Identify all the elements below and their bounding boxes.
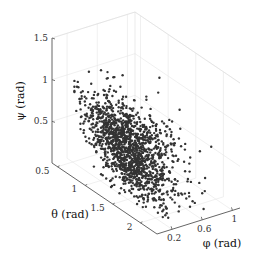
data-point: [161, 169, 163, 171]
data-point: [80, 116, 82, 118]
data-point: [106, 140, 108, 142]
data-point: [152, 199, 154, 201]
data-point: [159, 131, 161, 133]
data-point: [113, 140, 115, 142]
data-point: [158, 143, 160, 145]
data-point: [113, 135, 115, 137]
data-point: [151, 149, 153, 151]
data-point: [105, 117, 107, 119]
data-point: [105, 113, 107, 115]
data-point: [121, 145, 123, 147]
data-point: [149, 142, 151, 144]
data-point: [146, 167, 148, 169]
data-point: [137, 152, 139, 154]
data-point: [92, 118, 94, 120]
data-point: [148, 193, 150, 195]
data-point: [79, 108, 81, 110]
data-point: [111, 177, 113, 179]
data-point: [129, 120, 131, 122]
data-point: [103, 158, 105, 160]
data-point: [131, 130, 133, 132]
data-point: [110, 124, 112, 126]
data-point: [160, 173, 162, 175]
data-point: [100, 156, 102, 158]
data-point: [133, 169, 135, 171]
data-point: [164, 146, 166, 148]
data-point: [123, 180, 125, 182]
data-point: [120, 154, 122, 156]
data-point: [130, 108, 132, 110]
data-point: [102, 113, 104, 115]
data-point: [141, 142, 143, 144]
data-point: [129, 118, 131, 120]
data-point: [134, 156, 136, 158]
data-point: [159, 169, 161, 171]
data-point: [140, 181, 142, 183]
data-point: [128, 173, 130, 175]
data-point: [128, 143, 130, 145]
data-point: [123, 176, 125, 178]
y-tick: [140, 222, 142, 223]
data-point: [165, 206, 167, 208]
data-point: [121, 74, 123, 76]
z-tick-label: 0.5: [34, 116, 49, 126]
data-point: [107, 77, 109, 79]
data-point: [112, 146, 114, 148]
data-point: [84, 136, 86, 138]
data-point: [108, 165, 110, 167]
data-point: [188, 192, 190, 194]
data-point: [129, 169, 131, 171]
data-point: [153, 162, 155, 164]
data-point: [134, 183, 136, 185]
data-point: [131, 165, 133, 167]
data-point: [188, 162, 190, 164]
data-point: [95, 142, 97, 144]
data-point: [143, 131, 145, 133]
data-point: [165, 151, 167, 153]
data-point: [95, 151, 97, 153]
data-point: [169, 128, 171, 130]
data-point: [133, 144, 135, 146]
data-point: [88, 71, 90, 73]
data-point: [120, 117, 122, 119]
data-point: [75, 110, 77, 112]
data-point: [173, 183, 175, 185]
data-point: [131, 148, 133, 150]
data-point: [132, 117, 134, 119]
data-point: [137, 133, 139, 135]
data-point: [164, 130, 166, 132]
data-point: [99, 109, 101, 111]
data-point: [92, 109, 94, 111]
data-point: [119, 136, 121, 138]
data-point: [158, 190, 160, 192]
grid-lines: [52, 12, 240, 229]
data-point: [128, 190, 130, 192]
data-point: [143, 201, 145, 203]
data-point: [162, 198, 164, 200]
data-point: [130, 115, 132, 117]
data-point: [120, 187, 122, 189]
data-point: [128, 151, 130, 153]
data-point: [113, 76, 115, 78]
data-point: [154, 137, 156, 139]
data-point: [140, 172, 142, 174]
data-point: [137, 154, 139, 156]
data-point: [142, 185, 144, 187]
data-point: [108, 115, 110, 117]
data-point: [140, 147, 142, 149]
data-point: [148, 158, 150, 160]
z-tick-label: 1.5: [34, 33, 49, 43]
data-point: [172, 189, 174, 191]
data-point: [89, 103, 91, 105]
data-point: [115, 131, 117, 133]
data-point: [98, 135, 100, 137]
data-point: [133, 195, 135, 197]
data-point: [144, 126, 146, 128]
data-point: [174, 190, 176, 192]
data-point: [125, 137, 127, 139]
data-point: [168, 119, 170, 121]
data-point: [102, 89, 104, 91]
data-point: [115, 137, 117, 139]
data-point: [88, 117, 90, 119]
data-point: [178, 109, 180, 111]
